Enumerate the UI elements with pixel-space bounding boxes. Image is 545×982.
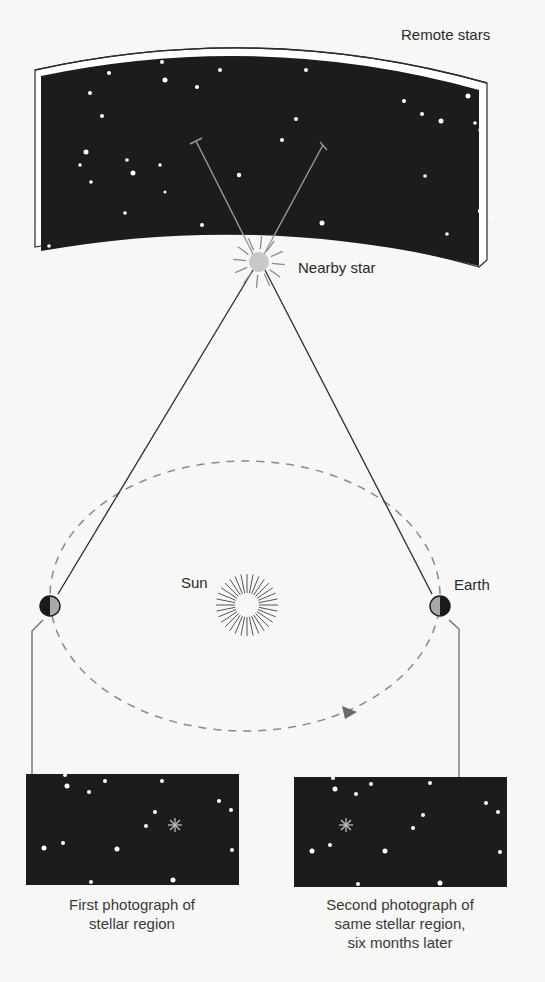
remote-star bbox=[160, 60, 164, 64]
remote-star bbox=[218, 68, 222, 72]
remote-star bbox=[304, 68, 308, 72]
remote-star bbox=[294, 117, 298, 121]
remote-star bbox=[200, 223, 204, 227]
remote-star bbox=[402, 99, 406, 103]
remote-star bbox=[123, 211, 127, 215]
earth-left-icon bbox=[40, 596, 60, 616]
caption-first-line-1: First photograph of bbox=[22, 895, 242, 914]
photo-frame bbox=[294, 777, 507, 887]
photo-star bbox=[354, 792, 358, 796]
remote-star bbox=[320, 221, 325, 226]
photo-star bbox=[63, 773, 67, 777]
remote-star bbox=[445, 232, 449, 236]
remote-star bbox=[481, 169, 485, 173]
photo-star bbox=[229, 808, 233, 812]
photo-star bbox=[383, 849, 388, 854]
earth-orbit bbox=[50, 461, 440, 731]
photo-star bbox=[333, 787, 338, 792]
caption-first-photograph: First photograph of stellar region bbox=[22, 895, 242, 933]
photo-star bbox=[310, 849, 315, 854]
photo-star bbox=[421, 813, 425, 817]
label-sun: Sun bbox=[181, 574, 208, 591]
photo-star bbox=[356, 882, 360, 886]
remote-star bbox=[490, 215, 494, 219]
photo-star bbox=[115, 847, 120, 852]
nearby-star-icon bbox=[233, 236, 285, 288]
caption-second-line-2: same stellar region, bbox=[290, 914, 510, 933]
photo-star bbox=[328, 843, 332, 847]
second-photograph bbox=[294, 776, 507, 887]
remote-star bbox=[478, 209, 482, 213]
remote-star bbox=[47, 244, 51, 248]
remote-star bbox=[78, 163, 82, 167]
remote-star bbox=[163, 78, 168, 83]
caption-second-line-1: Second photograph of bbox=[290, 895, 510, 914]
sight-line-right-earth bbox=[265, 270, 432, 594]
remote-star bbox=[195, 85, 199, 89]
photo-star bbox=[496, 810, 500, 814]
photo-star bbox=[87, 790, 91, 794]
photo-star bbox=[61, 841, 65, 845]
photo-star bbox=[160, 779, 164, 783]
remote-star bbox=[420, 112, 424, 116]
remote-star bbox=[423, 174, 427, 178]
photo-star bbox=[438, 881, 443, 886]
caption-first-line-2: stellar region bbox=[22, 914, 242, 933]
photo-star bbox=[89, 880, 93, 884]
remote-star bbox=[466, 94, 471, 99]
photo-star bbox=[217, 799, 221, 803]
nearby-star-asterisk-icon bbox=[339, 818, 353, 832]
photo-star bbox=[65, 784, 70, 789]
label-remote-stars: Remote stars bbox=[401, 26, 490, 43]
sun-icon bbox=[216, 574, 278, 636]
first-photograph bbox=[26, 773, 239, 885]
connector-right bbox=[449, 620, 459, 778]
photo-star bbox=[144, 824, 148, 828]
remote-star bbox=[280, 138, 284, 142]
photo-connectors bbox=[32, 620, 459, 778]
photo-star bbox=[42, 846, 47, 851]
remote-star bbox=[237, 173, 241, 177]
remote-star bbox=[478, 128, 482, 132]
caption-second-photograph: Second photograph of same stellar region… bbox=[290, 895, 510, 952]
remote-star bbox=[473, 121, 477, 125]
connector-left bbox=[32, 620, 43, 775]
label-nearby-star: Nearby star bbox=[298, 259, 376, 276]
remote-star-field bbox=[35, 48, 494, 267]
remote-star bbox=[439, 119, 444, 124]
sight-line-left-earth bbox=[58, 270, 253, 594]
photo-star bbox=[498, 850, 502, 854]
label-earth: Earth bbox=[454, 576, 490, 593]
photo-star bbox=[369, 782, 373, 786]
remote-star bbox=[89, 180, 93, 184]
nearby-star-asterisk-icon bbox=[168, 818, 182, 832]
remote-star bbox=[100, 114, 104, 118]
parallax-diagram bbox=[0, 0, 545, 982]
remote-star bbox=[88, 91, 92, 95]
sight-lines-lower bbox=[58, 270, 432, 594]
photo-star bbox=[171, 878, 176, 883]
photo-frame bbox=[26, 774, 239, 885]
photo-star bbox=[428, 781, 432, 785]
earth-right-icon bbox=[430, 596, 450, 616]
remote-star bbox=[158, 163, 162, 167]
orbit-direction-arrow-icon bbox=[342, 706, 357, 719]
remote-star bbox=[107, 71, 111, 75]
photo-star bbox=[411, 826, 415, 830]
caption-second-line-3: six months later bbox=[290, 933, 510, 952]
remote-star bbox=[164, 191, 167, 194]
photo-star bbox=[153, 810, 157, 814]
photo-star bbox=[230, 848, 234, 852]
sky-slab bbox=[41, 56, 479, 266]
remote-star bbox=[84, 150, 89, 155]
remote-star bbox=[125, 158, 129, 162]
photo-star bbox=[331, 776, 335, 780]
photo-star bbox=[103, 779, 107, 783]
photo-star bbox=[484, 801, 488, 805]
remote-star bbox=[131, 171, 136, 176]
